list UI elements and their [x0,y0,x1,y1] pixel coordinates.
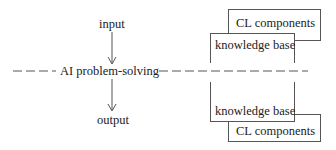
lower-knowledge-base-box: knowledge base [210,82,295,122]
upper-knowledge-base-box: knowledge base [210,33,295,63]
upper-knowledge-base-label: knowledge base [215,38,295,52]
input-arrow-icon [108,32,116,64]
lower-cl-components-label: CL components [236,124,315,138]
output-label: output [97,113,129,127]
input-label: input [99,17,125,31]
center-label: AI problem-solving [60,64,159,78]
output-arrow-icon [108,79,116,111]
lower-knowledge-base-label: knowledge base [215,104,295,118]
upper-cl-components-label: CL components [236,16,315,30]
